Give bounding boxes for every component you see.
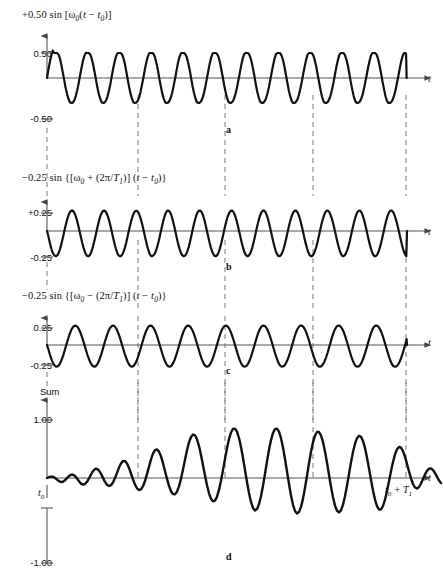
waveform-svg [0,0,443,580]
panel-c-curve [47,326,407,367]
panel-a-axes [41,36,425,119]
panel-a-curve [47,51,407,103]
panel-d-axes [41,400,425,563]
dashed-guides [47,95,406,478]
panel-d-curve [47,429,441,514]
panel-b-curve [47,210,407,256]
figure-container: +0.50 sin [ω0(t − t0)] 0.50 -0.50 t a −0… [0,0,443,580]
